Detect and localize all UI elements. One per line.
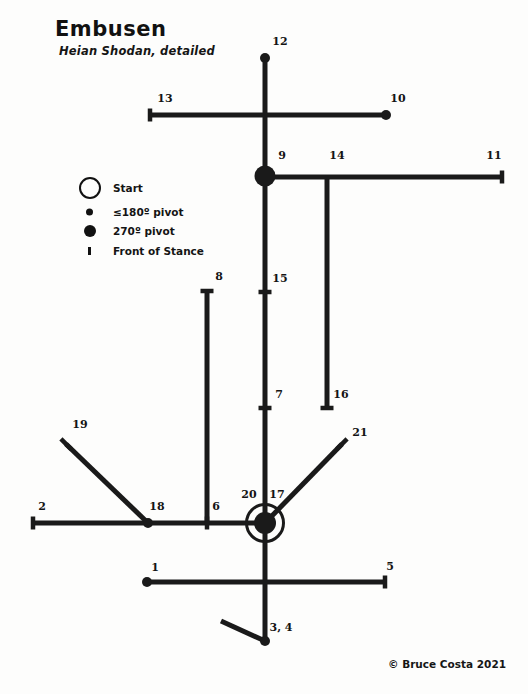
step-label-2: 2	[38, 500, 46, 513]
pivot-node-step-9	[255, 166, 276, 187]
step-label-20: 20	[241, 488, 256, 501]
segment-diagonal-bottom-3-4	[221, 621, 265, 641]
pivot-node-step-18	[143, 518, 153, 528]
step-label-16: 16	[333, 388, 348, 401]
pivot-node-step-12	[260, 53, 270, 63]
copyright-notice: © Bruce Costa 2021	[388, 658, 506, 670]
step-label-18: 18	[149, 500, 164, 513]
step-label-6: 6	[212, 500, 220, 513]
step-label-19: 19	[72, 418, 87, 431]
step-label-21: 21	[352, 426, 367, 439]
step-label-5: 5	[386, 560, 394, 573]
pivot-node-step-1	[142, 577, 152, 587]
step-label-12: 12	[272, 35, 287, 48]
step-label-7: 7	[275, 388, 283, 401]
step-label-11: 11	[486, 149, 501, 162]
start-pivot-node	[254, 512, 276, 534]
step-label-13: 13	[157, 92, 172, 105]
step-label-17: 17	[269, 488, 284, 501]
step-label-15: 15	[272, 272, 287, 285]
pivot-node-step-10	[381, 110, 391, 120]
segments-layer	[33, 58, 502, 641]
segment-diagonal-19-18	[66, 444, 148, 523]
pivot-node-step-3, 4	[260, 636, 270, 646]
step-label-3-4: 3, 4	[270, 621, 293, 634]
embusen-line-diagram	[0, 0, 528, 694]
segment-diagonal-21-17	[265, 444, 342, 523]
step-label-9: 9	[278, 149, 286, 162]
step-label-1: 1	[151, 561, 159, 574]
embusen-diagram-page: Embusen Heian Shodan, detailed Start ≤18…	[0, 0, 528, 694]
step-label-14: 14	[329, 149, 344, 162]
step-label-10: 10	[390, 92, 405, 105]
step-label-8: 8	[215, 270, 223, 283]
